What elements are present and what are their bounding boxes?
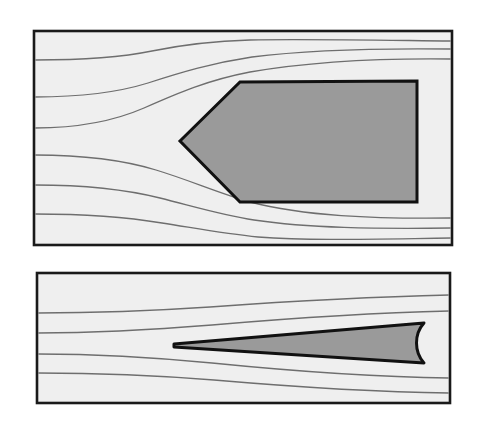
lower-panel: [37, 273, 450, 403]
upper-panel: [34, 31, 452, 245]
streamline-figure: [0, 0, 481, 432]
figure-canvas: [0, 0, 481, 432]
